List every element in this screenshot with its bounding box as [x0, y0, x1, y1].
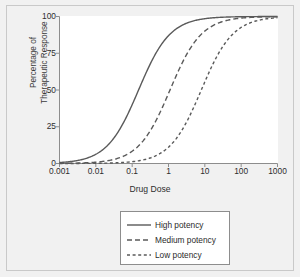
- legend-item: High potency: [127, 217, 229, 232]
- chart-legend: High potencyMedium potencyLow potency: [120, 211, 230, 265]
- x-tick-label: 0.001: [49, 167, 70, 176]
- legend-item: Low potency: [127, 247, 229, 262]
- legend-label: High potency: [155, 220, 203, 230]
- legend-item: Medium potency: [127, 232, 229, 247]
- x-tick-label: 0.1: [126, 167, 138, 176]
- x-axis-title: Drug Dose: [0, 184, 300, 194]
- x-tick-label: 1000: [268, 167, 287, 176]
- x-tick-label: 0.01: [88, 167, 104, 176]
- legend-line-long-dash-icon: [127, 235, 151, 245]
- x-tick-label: 10: [200, 167, 209, 176]
- legend-label: Low potency: [155, 250, 202, 260]
- chart-figure: Percentage of Therapeutic Response 02550…: [0, 0, 300, 277]
- legend-label: Medium potency: [155, 235, 216, 245]
- legend-line-short-dash-icon: [127, 250, 151, 260]
- legend-line-solid-icon: [127, 220, 151, 230]
- x-tick-label: 100: [234, 167, 248, 176]
- x-tick-label: 1: [166, 167, 171, 176]
